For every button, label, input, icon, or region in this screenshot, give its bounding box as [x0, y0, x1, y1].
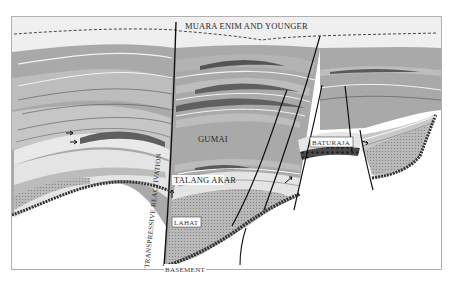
label-muara-enim: MUARA ENIM AND YOUNGER	[185, 21, 308, 31]
label-basement: BASEMENT	[165, 266, 206, 274]
geological-cross-section: MUARA ENIM AND YOUNGER GUMAI BATURAJA TA…	[0, 0, 452, 286]
label-talang-akar: TALANG AKAR	[174, 175, 236, 185]
label-baturaja: BATURAJA	[312, 139, 350, 147]
label-lahat: LAHAT	[174, 219, 199, 227]
label-gumai: GUMAI	[198, 134, 228, 144]
